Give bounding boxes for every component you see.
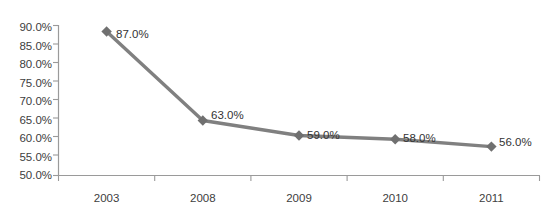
x-axis-label-group: 2003 2008 2009 2010 2011 [0, 0, 550, 211]
x-axis-tick-label: 2011 [479, 192, 504, 204]
x-axis-tick-label: 2003 [94, 192, 120, 204]
line-chart: 90.0% 85.0% 80.0% 75.0% 70.0% 65.0% 60.0… [0, 0, 550, 211]
x-axis-tick-label: 2009 [286, 192, 312, 204]
x-axis-tick-label: 2010 [382, 192, 408, 204]
x-axis-tick-label: 2008 [190, 192, 216, 204]
